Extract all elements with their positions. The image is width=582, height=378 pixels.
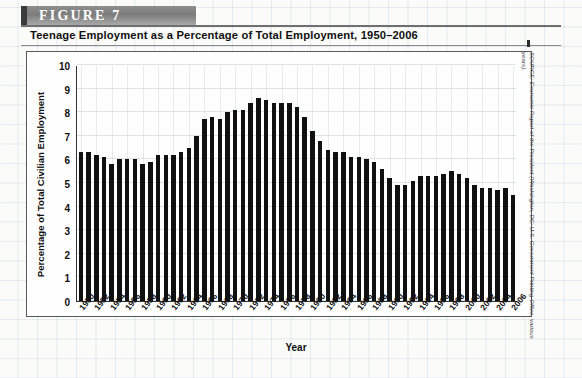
bar [287, 103, 291, 301]
bar [465, 178, 469, 301]
x-axis-title: Year [76, 342, 516, 353]
bar [248, 103, 252, 301]
bar [117, 159, 121, 301]
bar-series [77, 66, 516, 301]
figure-badge-box: FIGURE 7 [27, 6, 196, 25]
y-tick-label: 5 [48, 179, 70, 190]
bar [133, 159, 137, 301]
bar [418, 176, 422, 301]
bar [264, 100, 268, 301]
bar [187, 148, 191, 301]
y-tick-label: 7 [48, 131, 70, 142]
bar [411, 181, 415, 301]
bar [102, 157, 106, 301]
bar [164, 155, 168, 301]
figure-badge-label: FIGURE 7 [27, 8, 122, 24]
bar [333, 152, 337, 301]
bar [86, 152, 90, 301]
bar [387, 178, 391, 301]
bar [148, 162, 152, 301]
bar [156, 155, 160, 301]
bar [488, 188, 492, 301]
y-tick-label: 4 [48, 202, 70, 213]
bar [434, 176, 438, 301]
bar [272, 103, 276, 301]
y-tick-label: 10 [48, 61, 70, 72]
bar [318, 141, 322, 301]
bar [480, 188, 484, 301]
bar [194, 136, 198, 301]
bar [403, 185, 407, 301]
bar [125, 159, 129, 301]
bar [94, 155, 98, 301]
y-tick-label: 2 [48, 249, 70, 260]
bar [472, 185, 476, 301]
bar [171, 155, 175, 301]
y-tick-label: 3 [48, 226, 70, 237]
bar [256, 98, 260, 301]
bar [109, 164, 113, 301]
source-note: SOURCE: Economic Report of the President… [516, 52, 536, 352]
bar [233, 110, 237, 301]
bar [79, 152, 83, 301]
plot-area [76, 66, 516, 302]
y-axis-title-text: Percentage of Total Civilian Employment [36, 91, 47, 276]
bar [395, 185, 399, 301]
figure-badge: FIGURE 7 [21, 6, 196, 25]
y-tick-label: 0 [48, 297, 70, 308]
bar [179, 152, 183, 301]
title-rule-top [21, 25, 561, 27]
bar [326, 150, 330, 301]
bar [380, 169, 384, 301]
bar [310, 131, 314, 301]
page-title: Teenage Employment as a Percentage of To… [30, 29, 530, 41]
bar [357, 157, 361, 301]
y-tick-label: 6 [48, 155, 70, 166]
bar [295, 107, 299, 301]
bar [349, 157, 353, 301]
bar [279, 103, 283, 301]
bar [210, 117, 214, 301]
bar [457, 174, 461, 301]
y-axis-title: Percentage of Total Civilian Employment [34, 66, 48, 302]
bar [495, 190, 499, 301]
bar [202, 119, 206, 301]
bar [503, 188, 507, 301]
bar [218, 119, 222, 301]
title-endcap-marker [527, 40, 530, 47]
bar [140, 164, 144, 301]
bar [426, 176, 430, 301]
title-rule-bottom [21, 45, 561, 46]
bar [341, 152, 345, 301]
bar [302, 117, 306, 301]
bar [372, 162, 376, 301]
bar [364, 159, 368, 301]
y-tick-label: 1 [48, 273, 70, 284]
bar [441, 174, 445, 301]
y-tick-label: 9 [48, 84, 70, 95]
bar [511, 195, 515, 301]
bar [241, 110, 245, 301]
bar [449, 171, 453, 301]
bar [225, 112, 229, 301]
y-tick-label: 8 [48, 108, 70, 119]
